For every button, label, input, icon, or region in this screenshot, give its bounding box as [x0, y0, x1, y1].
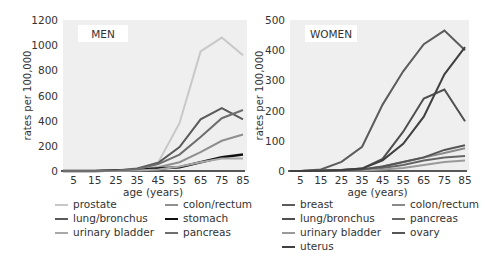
legend-swatch: [282, 204, 295, 206]
x-axis-label: age (years): [348, 186, 408, 198]
x-tick-label: 25: [109, 174, 122, 186]
y-tick-label: 200: [38, 140, 58, 152]
chart-title: MEN: [91, 28, 115, 40]
legend-swatch: [282, 232, 295, 234]
x-tick-label: 85: [236, 174, 249, 186]
legend-item-stomach: stomach: [165, 212, 228, 226]
x-tick-label: 75: [215, 174, 228, 186]
legend-swatch: [282, 218, 295, 220]
legend-swatch: [392, 218, 405, 220]
legend-label: lung/bronchus: [73, 212, 148, 226]
legend-swatch: [165, 218, 178, 220]
legend-item-colon-rectum: colon/rectum: [165, 198, 252, 212]
men-line-chart: MEN0200400600800100012005152535455565758…: [0, 0, 250, 200]
x-tick-label: 65: [194, 174, 207, 186]
legend-item-pancreas: pancreas: [392, 212, 458, 226]
legend-swatch: [392, 232, 405, 234]
plot-area: [290, 20, 469, 171]
men-legend: prostate colon/rectum lung/bronchus stom…: [55, 198, 250, 248]
legend-swatch: [55, 204, 68, 206]
y-tick-label: 800: [38, 64, 58, 76]
legend-item-breast: breast: [282, 198, 333, 212]
x-tick-label: 25: [335, 174, 348, 186]
legend-label: lung/bronchus: [300, 212, 375, 226]
y-axis-label: rates per 100,000: [254, 51, 265, 141]
legend-label: urinary bladder: [300, 226, 381, 240]
x-tick-label: 15: [314, 174, 327, 186]
legend-swatch: [165, 204, 178, 206]
x-tick-label: 5: [297, 174, 304, 186]
y-tick-label: 600: [38, 90, 58, 102]
y-tick-label: 500: [265, 14, 285, 26]
chart-title: WOMEN: [310, 28, 352, 40]
x-tick-label: 85: [458, 174, 471, 186]
x-tick-label: 15: [88, 174, 101, 186]
legend-item-ovary: ovary: [392, 226, 440, 240]
x-tick-label: 75: [438, 174, 451, 186]
women-legend: breast colon/rectum lung/bronchus pancre…: [282, 198, 498, 262]
legend-label: urinary bladder: [73, 226, 154, 240]
y-tick-label: 0: [278, 165, 285, 177]
y-tick-label: 1000: [31, 39, 58, 51]
legend-label: stomach: [183, 212, 228, 226]
x-tick-label: 35: [130, 174, 143, 186]
legend-swatch: [55, 232, 68, 234]
x-tick-label: 45: [152, 174, 165, 186]
x-tick-label: 45: [376, 174, 389, 186]
legend-swatch: [282, 246, 295, 248]
legend-item-pancreas: pancreas: [165, 226, 231, 240]
legend-swatch: [165, 232, 178, 234]
y-axis-label: rates per 100,000: [22, 51, 33, 141]
x-tick-label: 55: [173, 174, 186, 186]
legend-swatch: [392, 204, 405, 206]
y-tick-label: 400: [38, 115, 58, 127]
legend-swatch: [55, 218, 68, 220]
x-tick-label: 35: [355, 174, 368, 186]
legend-label: colon/rectum: [410, 198, 479, 212]
legend-label: pancreas: [410, 212, 458, 226]
women-chart-panel: WOMEN010020030040050051525354555657585ag…: [250, 0, 498, 268]
legend-item-colon-rectum: colon/rectum: [392, 198, 479, 212]
legend-label: pancreas: [183, 226, 231, 240]
y-tick-label: 300: [265, 74, 285, 86]
y-tick-label: 400: [265, 44, 285, 56]
legend-label: uterus: [300, 240, 334, 254]
y-tick-label: 100: [265, 135, 285, 147]
y-tick-label: 200: [265, 105, 285, 117]
legend-label: prostate: [73, 198, 117, 212]
x-tick-label: 65: [417, 174, 430, 186]
x-tick-label: 55: [397, 174, 410, 186]
x-tick-label: 5: [70, 174, 77, 186]
legend-item-lung-bronchus: lung/bronchus: [55, 212, 148, 226]
legend-item-urinary-bladder: urinary bladder: [282, 226, 381, 240]
legend-item-uterus: uterus: [282, 240, 334, 254]
legend-item-urinary-bladder: urinary bladder: [55, 226, 154, 240]
y-tick-label: 0: [51, 165, 58, 177]
legend-label: breast: [300, 198, 333, 212]
women-line-chart: WOMEN010020030040050051525354555657585ag…: [250, 0, 498, 200]
legend-item-prostate: prostate: [55, 198, 117, 212]
legend-item-lung-bronchus: lung/bronchus: [282, 212, 375, 226]
y-tick-label: 1200: [31, 14, 58, 26]
plot-area: [63, 20, 247, 171]
men-chart-panel: MEN0200400600800100012005152535455565758…: [0, 0, 250, 268]
legend-label: colon/rectum: [183, 198, 252, 212]
legend-label: ovary: [410, 226, 440, 240]
x-axis-label: age (years): [123, 186, 183, 198]
